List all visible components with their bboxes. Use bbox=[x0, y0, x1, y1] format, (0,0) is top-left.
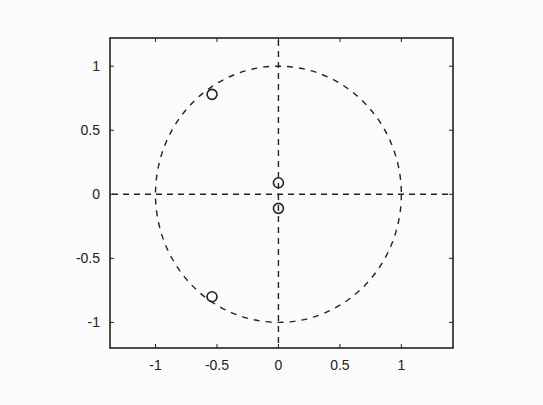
x-tick-label: -1 bbox=[149, 357, 162, 373]
zero-marker bbox=[207, 292, 217, 302]
pole-zero-plot: -1-0.500.51 10.50-0.5-1 bbox=[0, 0, 543, 405]
y-tick-labels: 10.50-0.5-1 bbox=[76, 58, 100, 330]
y-tick-label: 1 bbox=[92, 58, 100, 74]
axis-ticks bbox=[110, 38, 453, 348]
y-tick-label: -1 bbox=[88, 314, 101, 330]
zero-markers bbox=[207, 89, 283, 301]
x-tick-label: -0.5 bbox=[205, 357, 229, 373]
x-tick-label: 1 bbox=[397, 357, 405, 373]
y-tick-label: -0.5 bbox=[76, 250, 100, 266]
x-tick-label: 0.5 bbox=[330, 357, 350, 373]
y-tick-label: 0.5 bbox=[81, 122, 101, 138]
zero-marker bbox=[207, 89, 217, 99]
plot-frame bbox=[110, 38, 453, 348]
x-tick-label: 0 bbox=[275, 357, 283, 373]
x-tick-labels: -1-0.500.51 bbox=[149, 357, 405, 373]
y-tick-label: 0 bbox=[92, 186, 100, 202]
